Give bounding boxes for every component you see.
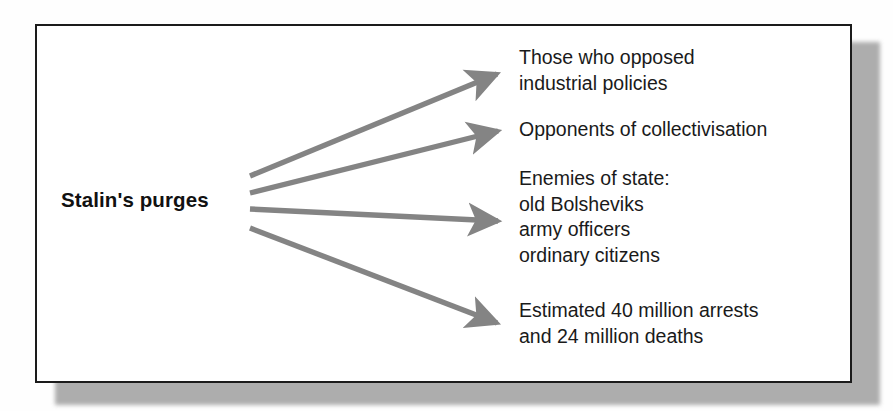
branch-label-line: Enemies of state: <box>519 166 670 192</box>
branch-label-opponents-of-collectivisation: Opponents of collectivisation <box>519 117 767 143</box>
branch-label-estimated-arrests-and-deaths: Estimated 40 million arrests and 24 mill… <box>519 298 759 349</box>
source-node-label: Stalin's purges <box>61 188 209 212</box>
branch-label-line: industrial policies <box>519 71 695 97</box>
branch-label-line: Those who opposed <box>519 45 695 71</box>
branch-label-line: Estimated 40 million arrests <box>519 298 759 324</box>
branch-label-line: Opponents of collectivisation <box>519 117 767 143</box>
branch-label-line: old Bolsheviks <box>519 192 670 218</box>
branch-label-line: and 24 million deaths <box>519 324 759 350</box>
branch-label-enemies-of-state: Enemies of state: old Bolsheviks army of… <box>519 166 670 268</box>
diagram-root: Stalin's purges Those who opposed indust… <box>0 0 893 411</box>
branch-label-opposed-industrial-policies: Those who opposed industrial policies <box>519 45 695 96</box>
branch-label-line: ordinary citizens <box>519 243 670 269</box>
branch-label-line: army officers <box>519 217 670 243</box>
